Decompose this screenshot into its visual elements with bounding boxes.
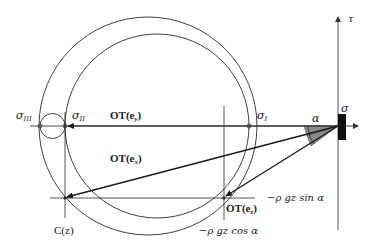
point-ez xyxy=(222,196,225,199)
vector-OT-ex-label: OT(ex) xyxy=(110,153,142,166)
origin-block xyxy=(338,114,346,140)
sigma-axis-label: σ xyxy=(341,103,349,114)
OT-ey-text: OT(e xyxy=(110,109,134,121)
alpha-symbol: α xyxy=(312,112,319,125)
vector-OT-ez-label: OT(ez) xyxy=(226,203,257,216)
vector-OT-ey-label: OT(ey) xyxy=(110,110,141,123)
sigma-II-label: σII xyxy=(72,110,85,123)
vector-OT-ez xyxy=(226,126,338,196)
sigma-III-subscript: III xyxy=(24,115,32,123)
sin-component-label: −ρ gz sin α xyxy=(267,193,324,203)
sigma-III-label: σIII xyxy=(16,110,32,123)
tau-symbol: τ xyxy=(348,13,354,24)
OT-ez-close: ) xyxy=(253,202,257,214)
OT-ex-close: ) xyxy=(138,152,142,164)
vector-OT-ex xyxy=(67,126,338,197)
sigma-II-symbol: σ xyxy=(72,109,80,122)
cos-component-label: −ρ gz cos α xyxy=(199,226,258,236)
cos-component-text: −ρ gz cos α xyxy=(199,225,258,236)
sigma-I-label: σI xyxy=(257,110,267,123)
point-C xyxy=(63,196,66,199)
sin-component-text: −ρ gz sin α xyxy=(267,192,324,203)
angle-alpha-label: α xyxy=(312,113,319,124)
sigma-III-symbol: σ xyxy=(16,109,24,122)
OT-ey-close: ) xyxy=(138,109,142,121)
mohr-circle-diagram xyxy=(0,0,369,252)
sigma-I-symbol: σ xyxy=(257,109,265,122)
C-z-text: C(z) xyxy=(54,224,74,236)
point-C-label: C(z) xyxy=(54,225,74,236)
OT-ez-text: OT(e xyxy=(226,202,250,214)
tau-axis-label: τ xyxy=(348,14,354,24)
sigma-II-subscript: II xyxy=(80,115,86,123)
OT-ex-text: OT(e xyxy=(110,152,134,164)
sigma-I-subscript: I xyxy=(265,115,268,123)
sigma-symbol: σ xyxy=(341,102,349,115)
